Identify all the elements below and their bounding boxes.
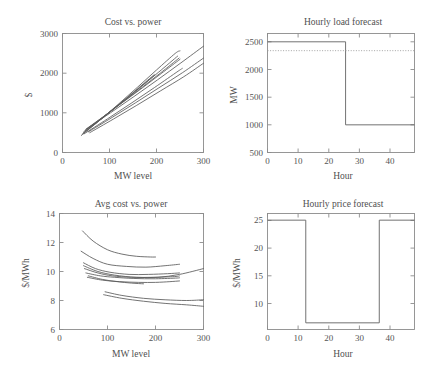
cost-vs-power-yticklabels: 0 1000 2000 3000 [40, 29, 59, 158]
hourly-load-forecast-svg: Hourly load forecast [214, 0, 428, 185]
xtick-2: 20 [324, 333, 334, 343]
hourly-price-forecast-series [268, 220, 415, 323]
hourly-price-forecast-title: Hourly price forecast [303, 199, 384, 209]
xtick-2: 20 [324, 156, 334, 166]
ytick-2: 1500 [245, 92, 264, 102]
hourly-load-forecast-series [268, 42, 415, 125]
cost-vs-power-ylabel: $ [24, 92, 34, 97]
x-tickmarks [268, 34, 391, 153]
xtick-1: 10 [294, 156, 304, 166]
xtick-4: 40 [386, 156, 396, 166]
y-tickmarks [268, 42, 415, 153]
cost-vs-power-series [81, 46, 203, 135]
xtick-3: 300 [197, 333, 211, 343]
cost-vs-power-title: Cost vs. power [105, 17, 163, 27]
hourly-load-forecast-plot-area [268, 34, 415, 153]
hourly-load-forecast-xlabel: Hour [333, 171, 353, 181]
ytick-3: 2000 [245, 65, 264, 75]
xtick-3: 300 [197, 156, 211, 166]
avg-cost-vs-power-svg: Avg cost vs. power [0, 185, 214, 369]
ytick-0: 500 [250, 148, 264, 158]
hourly-load-forecast-xticklabels: 0 10 20 30 40 [265, 156, 395, 166]
avg-cost-vs-power-xlabel: MW level [112, 349, 150, 359]
subplot-hourly-load-forecast: Hourly load forecast [214, 0, 428, 185]
series-line-10 [84, 68, 182, 133]
hourly-price-forecast-plot-area [268, 214, 415, 330]
series-line-1 [268, 42, 415, 125]
hourly-price-forecast-ylabel: $/MWh [232, 258, 242, 288]
series-line-2 [81, 251, 179, 267]
xtick-0: 0 [265, 333, 270, 343]
avg-cost-vs-power-ylabel: $/MWh [21, 258, 31, 288]
xtick-1: 100 [101, 333, 115, 343]
hourly-price-forecast-yticklabels: 10 15 20 25 [254, 215, 264, 308]
ytick-1: 1000 [40, 108, 59, 118]
x-tickmarks [268, 214, 391, 330]
cost-vs-power-svg: Cost vs. power [0, 0, 214, 185]
figure-panel-grid: Cost vs. power [0, 0, 428, 369]
hourly-load-forecast-yticklabels: 500 1000 1500 2000 2500 [245, 37, 264, 158]
axes-frame [268, 214, 415, 330]
hourly-price-forecast-xlabel: Hour [333, 349, 353, 359]
avg-cost-vs-power-plot-area [60, 214, 204, 330]
series-line-1 [268, 220, 415, 323]
ytick-1: 1000 [245, 120, 264, 130]
cost-vs-power-plot-area [63, 34, 204, 153]
ytick-3: 25 [254, 215, 264, 225]
ytick-4: 2500 [245, 37, 264, 47]
xtick-0: 0 [57, 333, 62, 343]
ytick-3: 12 [46, 238, 55, 248]
xtick-2: 200 [150, 156, 164, 166]
xtick-4: 40 [386, 333, 396, 343]
ytick-0: 10 [254, 299, 264, 309]
xtick-1: 100 [103, 156, 117, 166]
y-tickmarks [60, 214, 204, 330]
ytick-4: 14 [46, 209, 56, 219]
axes-frame [60, 214, 204, 330]
x-tickmarks [60, 214, 204, 330]
cost-vs-power-xlabel: MW level [114, 171, 152, 181]
hourly-load-forecast-ylabel: MW [229, 86, 239, 103]
subplot-avg-cost-vs-power: Avg cost vs. power [0, 185, 214, 369]
xtick-0: 0 [60, 156, 65, 166]
hourly-price-forecast-svg: Hourly price forecast [214, 185, 428, 369]
ytick-0: 0 [54, 148, 59, 158]
avg-cost-vs-power-yticklabels: 6 8 10 12 14 [46, 209, 56, 335]
ytick-1: 15 [254, 271, 264, 281]
hourly-load-forecast-title: Hourly load forecast [304, 17, 382, 27]
series-line-1 [83, 231, 156, 257]
series-line-9 [105, 292, 203, 301]
y-tickmarks [268, 220, 415, 303]
xtick-1: 10 [294, 333, 304, 343]
ytick-3: 3000 [40, 29, 59, 39]
avg-cost-vs-power-series [81, 231, 203, 306]
xtick-0: 0 [265, 156, 270, 166]
ytick-2: 10 [46, 267, 56, 277]
cost-vs-power-xticklabels: 0 100 200 300 [60, 156, 211, 166]
avg-cost-vs-power-xticklabels: 0 100 200 300 [57, 333, 211, 343]
series-line-8 [88, 58, 203, 132]
hourly-price-forecast-xticklabels: 0 10 20 30 40 [265, 333, 395, 343]
ytick-2: 2000 [40, 68, 59, 78]
series-line-9 [90, 63, 204, 132]
subplot-hourly-price-forecast: Hourly price forecast [214, 185, 428, 369]
ytick-2: 20 [254, 243, 264, 253]
avg-cost-vs-power-title: Avg cost vs. power [95, 199, 168, 209]
subplot-cost-vs-power: Cost vs. power [0, 0, 214, 185]
xtick-2: 200 [149, 333, 163, 343]
axes-frame [268, 34, 415, 153]
ytick-0: 6 [51, 325, 56, 335]
xtick-3: 30 [355, 333, 365, 343]
xtick-3: 30 [355, 156, 365, 166]
ytick-1: 8 [51, 296, 56, 306]
